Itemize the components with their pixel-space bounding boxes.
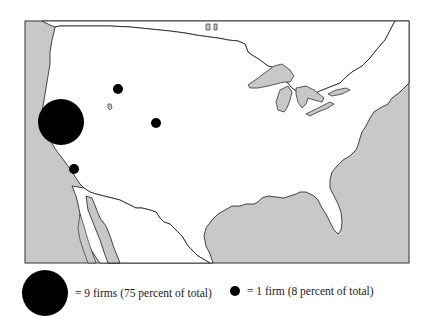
marker-colorado xyxy=(151,118,161,128)
marker-california-large xyxy=(38,99,84,145)
legend-large: = 9 firms (75 percent of total) xyxy=(22,270,212,316)
us-map xyxy=(0,0,430,270)
marker-idaho xyxy=(113,84,123,94)
legend-large-circle-icon xyxy=(22,270,68,316)
marker-southern-california xyxy=(69,164,79,174)
legend-small-label: = 1 firm (8 percent of total) xyxy=(247,285,374,297)
legend-small-circle-icon xyxy=(230,286,240,296)
legend-large-label: = 9 firms (75 percent of total) xyxy=(75,287,212,299)
legend-small: = 1 firm (8 percent of total) xyxy=(230,285,374,297)
